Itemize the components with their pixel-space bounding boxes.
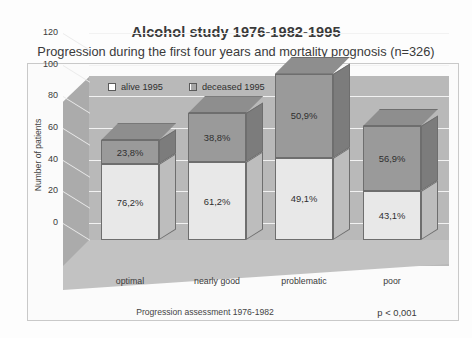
figure: Alcohol study 1976-1982-1995 Progression… — [0, 0, 472, 338]
x-axis-tick-label: nearly good — [176, 276, 258, 286]
bar-problematic: 50,9%49,1% — [275, 74, 333, 240]
gridline — [89, 96, 449, 97]
x-axis-tick-label: problematic — [263, 276, 345, 286]
x-axis-tick-label: optimal — [89, 276, 171, 286]
bar-label-deceased: 50,9% — [291, 110, 318, 121]
y-axis-tick-label: 40 — [18, 154, 58, 164]
bar-side-alive — [333, 147, 350, 240]
bar-poor: 56,9%43,1% — [363, 126, 421, 240]
bar-side-alive — [421, 180, 438, 240]
bar-segment-deceased: 56,9% — [363, 126, 421, 191]
bar-segment-alive: 76,2% — [101, 164, 159, 240]
y-axis-tick-label: 80 — [18, 90, 58, 100]
bar-optimal: 23,8%76,2% — [101, 140, 159, 240]
y-axis-tick-label: 20 — [18, 185, 58, 195]
bar-side-deceased — [421, 115, 438, 191]
legend-label-alive: alive 1995 — [121, 82, 163, 92]
bar-label-alive: 49,1% — [291, 193, 318, 204]
x-axis-tick-label: poor — [351, 276, 433, 286]
chart-subtitle: Progression during the first four years … — [0, 44, 472, 59]
bar-segment-deceased: 50,9% — [275, 74, 333, 158]
y-axis-tick-label: 60 — [18, 122, 58, 132]
gridline — [89, 33, 449, 34]
p-value-annotation: p < 0,001 — [352, 307, 442, 318]
y-axis-tick-label: 0 — [18, 217, 58, 227]
legend: alive 1995 deceased 1995 — [108, 82, 265, 92]
bar-segment-alive: 49,1% — [275, 158, 333, 240]
bar-label-deceased: 38,8% — [204, 132, 231, 143]
legend-label-deceased: deceased 1995 — [202, 82, 265, 92]
gridline — [89, 65, 449, 66]
bar-nearly-good: 38,8%61,2% — [188, 113, 246, 240]
bar-side-alive — [246, 152, 263, 240]
legend-item-alive: alive 1995 — [108, 82, 163, 92]
bar-label-deceased: 56,9% — [379, 153, 406, 164]
y-axis-tick-label: 120 — [18, 27, 58, 37]
x-axis-title: Progression assessment 1976-1982 — [95, 307, 315, 317]
bar-label-alive: 61,2% — [204, 196, 231, 207]
bar-segment-deceased: 38,8% — [188, 113, 246, 162]
bar-label-deceased: 23,8% — [117, 147, 144, 158]
bar-label-alive: 76,2% — [117, 197, 144, 208]
bar-segment-alive: 61,2% — [188, 162, 246, 240]
plot-area: 23,8%76,2%38,8%61,2%50,9%49,1%56,9%43,1%… — [63, 76, 449, 290]
y-axis-tick-label: 100 — [18, 59, 58, 69]
bar-segment-alive: 43,1% — [363, 191, 421, 240]
bar-segment-deceased: 23,8% — [101, 140, 159, 164]
bar-side-alive — [159, 153, 176, 240]
bar-side-deceased — [333, 63, 350, 158]
legend-item-deceased: deceased 1995 — [189, 82, 265, 92]
bar-label-alive: 43,1% — [379, 210, 406, 221]
legend-swatch-deceased-icon — [189, 83, 197, 91]
legend-swatch-alive-icon — [108, 83, 116, 91]
